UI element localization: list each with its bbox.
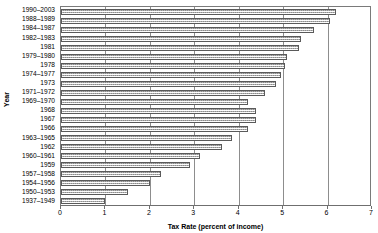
bar [61,18,330,24]
y-tick-label: 1974–1977 [0,70,58,79]
bar-row [61,187,370,196]
bar-row [61,106,370,115]
x-tick-mark [238,206,239,209]
bar [61,180,150,186]
x-tick-mark [282,206,283,209]
y-tick-label: 1963–1965 [0,133,58,142]
x-tick-mark [327,206,328,209]
bar [61,99,248,105]
bar [61,117,256,123]
bar-row [61,7,370,16]
bar-row [61,151,370,160]
x-tick-mark [193,206,194,209]
bar-row [61,97,370,106]
y-tick-label: 1962 [0,142,58,151]
x-tick-label: 7 [361,209,378,216]
bar-row [61,196,370,205]
y-tick-label: 1969–1970 [0,97,58,106]
y-tick-label: 1981 [0,42,58,51]
x-tick-label: 2 [139,209,159,216]
x-tick-mark [371,206,372,209]
bar [61,72,281,78]
bar-row [61,160,370,169]
bar-row [61,133,370,142]
bar-row [61,124,370,133]
bar-row [61,70,370,79]
bar [61,144,222,150]
bars-container [61,7,370,205]
y-axis-tick-labels: 1990–20031988–19891984–19871982–19831981… [0,6,58,206]
y-tick-label: 1960–1961 [0,152,58,161]
bar [61,45,299,51]
bar [61,81,276,87]
bar [61,54,287,60]
x-tick-label: 6 [317,209,337,216]
bar [61,198,105,204]
bar-row [61,178,370,187]
bar-row [61,61,370,70]
x-tick-label: 1 [94,209,114,216]
y-tick-label: 1967 [0,115,58,124]
bar-row [61,16,370,25]
bar-row [61,52,370,61]
bar [61,126,248,132]
x-axis-title: Tax Rate (percent of income) [60,223,371,230]
x-tick-label: 5 [272,209,292,216]
bar [61,189,128,195]
y-tick-label: 1968 [0,106,58,115]
y-tick-label: 1959 [0,161,58,170]
bar [61,108,256,114]
y-tick-label: 1954–1956 [0,179,58,188]
bar-row [61,115,370,124]
bar [61,9,336,15]
x-tick-mark [149,206,150,209]
y-tick-label: 1979–1980 [0,51,58,60]
bar-row [61,79,370,88]
y-tick-label: 1990–2003 [0,6,58,15]
x-tick-label: 0 [50,209,70,216]
bar [61,171,161,177]
bar [61,153,200,159]
bar [61,36,301,42]
y-tick-label: 1957–1958 [0,170,58,179]
y-tick-label: 1950–1953 [0,188,58,197]
y-tick-label: 1982–1983 [0,33,58,42]
y-tick-label: 1978 [0,61,58,70]
y-tick-label: 1988–1989 [0,15,58,24]
bar-row [61,169,370,178]
x-axis-line [60,205,371,206]
bar-row [61,25,370,34]
bar-row [61,88,370,97]
y-tick-label: 1973 [0,79,58,88]
bar [61,162,190,168]
y-tick-label: 1971–1972 [0,88,58,97]
plot-area [60,6,371,206]
bar-row [61,43,370,52]
bar [61,63,285,69]
x-tick-mark [104,206,105,209]
y-tick-label: 1937–1949 [0,197,58,206]
bar-row [61,142,370,151]
y-tick-label: 1966 [0,124,58,133]
bar [61,90,265,96]
bar [61,27,314,33]
x-tick-label: 4 [228,209,248,216]
bar [61,135,232,141]
x-tick-label: 3 [183,209,203,216]
bar-row [61,34,370,43]
x-tick-mark [60,206,61,209]
y-tick-label: 1984–1987 [0,24,58,33]
